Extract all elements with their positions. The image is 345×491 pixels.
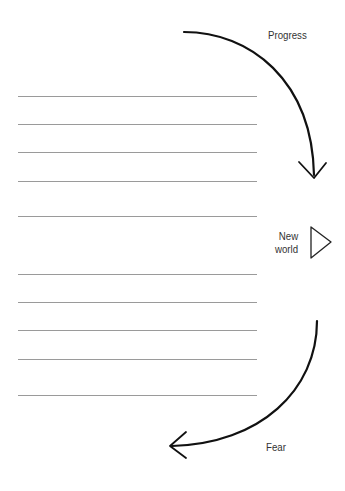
new-world-label-line2: world	[275, 243, 298, 256]
fear-label: Fear	[266, 441, 286, 454]
play-triangle-icon	[311, 227, 331, 258]
new-world-label: New world	[275, 230, 298, 256]
new-world-label-line1: New	[275, 230, 298, 243]
progress-arrow-icon	[184, 32, 326, 178]
progress-label: Progress	[268, 29, 307, 42]
fear-arrow-icon	[170, 321, 317, 458]
